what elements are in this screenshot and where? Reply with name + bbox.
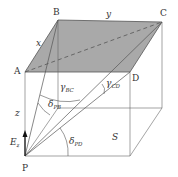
label-d: D [132, 73, 139, 83]
label-s: S [112, 132, 118, 142]
label-b: B [53, 7, 60, 17]
arc-delta-pd [60, 128, 68, 156]
label-z: z [14, 108, 20, 118]
label-p: P [22, 163, 28, 173]
gamma-bc-sub: BC [64, 87, 74, 93]
svg-text:Ez: Ez [9, 137, 20, 148]
bottom-right-edge [130, 108, 162, 156]
ez-sub: z [16, 142, 20, 148]
svg-text:δPB: δPB [48, 99, 61, 110]
delta-pd-sub: PD [73, 141, 83, 147]
svg-text:δPD: δPD [69, 136, 83, 147]
label-a: A [13, 66, 21, 76]
label-c: C [160, 8, 167, 18]
geometry-diagram: B C A D P y x z S γBC γCD δPB δPD Ez [0, 0, 178, 177]
label-x: x [36, 38, 41, 48]
delta-pb-sub: PB [52, 104, 61, 110]
ez-arrow-head-icon [23, 130, 28, 137]
gamma-cd-sub: CD [111, 83, 120, 89]
label-y: y [105, 9, 112, 19]
svg-text:γBC: γBC [60, 82, 75, 93]
bottom-left-edge [25, 108, 58, 156]
arc-gamma-bc [40, 95, 80, 102]
arc-gamma-cd [102, 84, 105, 94]
svg-text:γCD: γCD [106, 78, 121, 89]
ray-pb [25, 20, 58, 156]
